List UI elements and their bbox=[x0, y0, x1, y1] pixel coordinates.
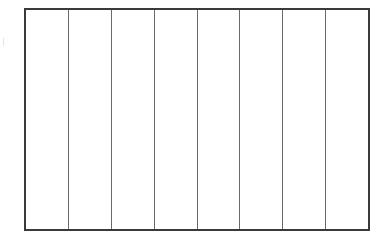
column-1 bbox=[26, 10, 69, 229]
divided-rectangle bbox=[24, 8, 370, 231]
column-4 bbox=[155, 10, 198, 229]
column-2 bbox=[69, 10, 112, 229]
column-6 bbox=[240, 10, 283, 229]
column-7 bbox=[283, 10, 326, 229]
column-5 bbox=[198, 10, 241, 229]
column-3 bbox=[112, 10, 155, 229]
column-8 bbox=[326, 10, 368, 229]
scan-artifact-mark bbox=[3, 38, 4, 46]
